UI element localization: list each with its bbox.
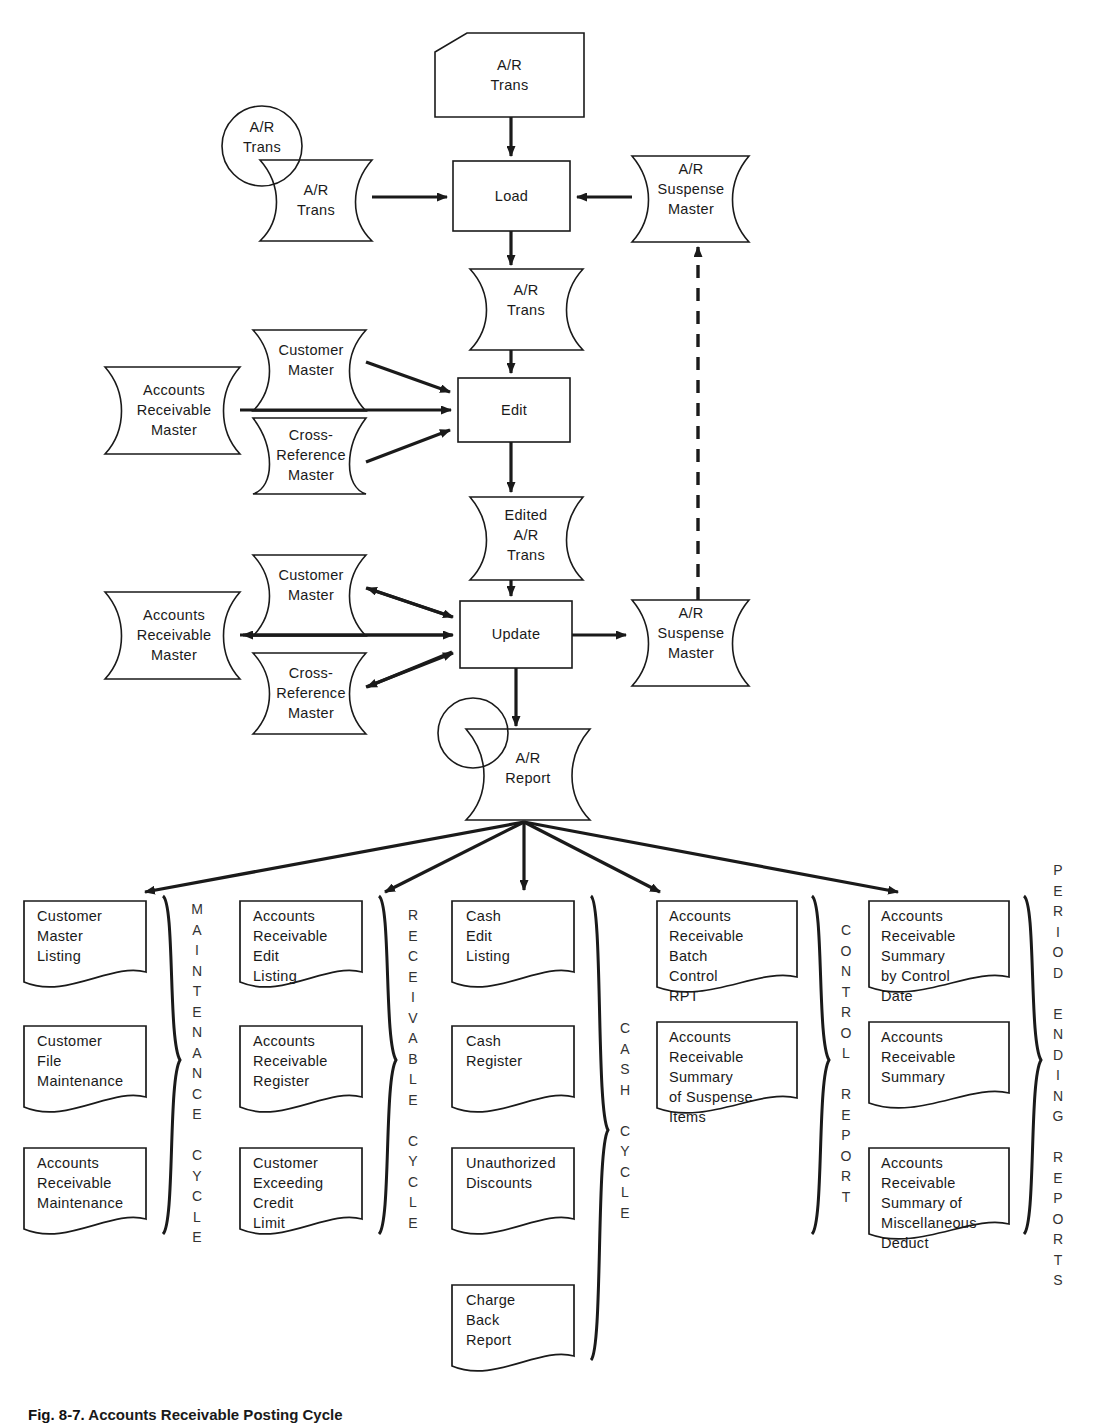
document-ar-batch-control-rpt [657,901,797,992]
disk-symbol-cross-reference-edit [253,418,366,494]
disk-symbol-suspense-master-bottom [632,600,749,686]
figure-caption: Fig. 8-7. Accounts Receivable Posting Cy… [28,1406,343,1423]
arrow-report-to-receivable-cycle [385,822,524,892]
document-customer-file-maintenance [24,1026,146,1112]
group-label-control-report: C O N T R O L R E P O R T [835,920,857,1207]
loop-connector-circle [438,698,508,768]
document-ar-summary [869,1022,1009,1108]
document-ar-edit-listing [240,901,362,987]
document-ar-summary-of-misc-deduct [869,1148,1009,1239]
figure-caption-text: Accounts Receivable Posting Cycle [88,1406,342,1423]
disk-symbol-customer-master-update [253,555,366,636]
process-box-update [460,601,572,668]
process-box-edit [458,378,570,442]
disk-symbol-ar-master-edit [105,367,240,454]
disk-symbol-ar-report [466,729,590,820]
document-accounts-receivable-maintenance [24,1148,146,1234]
document-customer-exceeding-credit-limit [240,1148,362,1234]
document-cash-edit-listing [452,901,574,987]
document-charge-back-report [452,1285,574,1371]
disk-symbol-customer-master-edit [253,330,366,411]
figure-page: A/R Trans A/R Trans A/R Trans Load A/R S… [0,0,1098,1423]
document-ar-summary-by-control-date [869,901,1009,992]
arrow-customer-master-to-edit [366,362,450,392]
arrow-cross-reference-to-edit [366,430,450,462]
group-label-cash-cycle: C A S H C Y C L E [614,1018,636,1223]
brace-maintenance-cycle [163,896,180,1234]
document-cash-register [452,1026,574,1112]
brace-receivable-cycle [379,896,396,1234]
brace-period-ending-reports [1024,896,1041,1234]
process-box-load [453,161,570,231]
disk-symbol-edited-ar-trans [470,497,583,580]
group-label-receivable-cycle: R E C E I V A B L E C Y C L E [402,905,424,1233]
figure-caption-number: Fig. 8-7. [28,1406,85,1423]
arrow-customer-master-to-update [366,588,453,617]
punched-card-ar-trans [435,33,584,117]
brace-cash-cycle [591,896,608,1360]
group-label-period-ending-reports: P E R I O D E N D I N G R E P O R T S [1047,860,1069,1291]
arrow-report-to-maintenance-cycle [145,822,524,892]
document-unauthorized-discounts [452,1148,574,1234]
disk-symbol-cross-reference-update [253,653,366,734]
flowchart-canvas [0,0,1098,1423]
disk-symbol-ar-trans [260,160,372,241]
disk-symbol-suspense-master-top [632,156,749,242]
document-ar-summary-of-suspense-items [657,1022,797,1113]
group-label-maintenance-cycle: M A I N T E N A N C E C Y C L E [186,899,208,1248]
arrow-report-to-control-report [524,822,660,892]
document-ar-register [240,1026,362,1112]
disk-symbol-ar-trans-2 [470,269,583,350]
brace-control-report [812,896,829,1234]
arrow-report-to-period-ending-reports [524,822,898,892]
document-customer-master-listing [24,901,146,987]
tape-symbol-ar-trans [222,106,302,186]
disk-symbol-ar-master-update [105,592,240,679]
arrow-cross-reference-to-update [366,653,453,687]
